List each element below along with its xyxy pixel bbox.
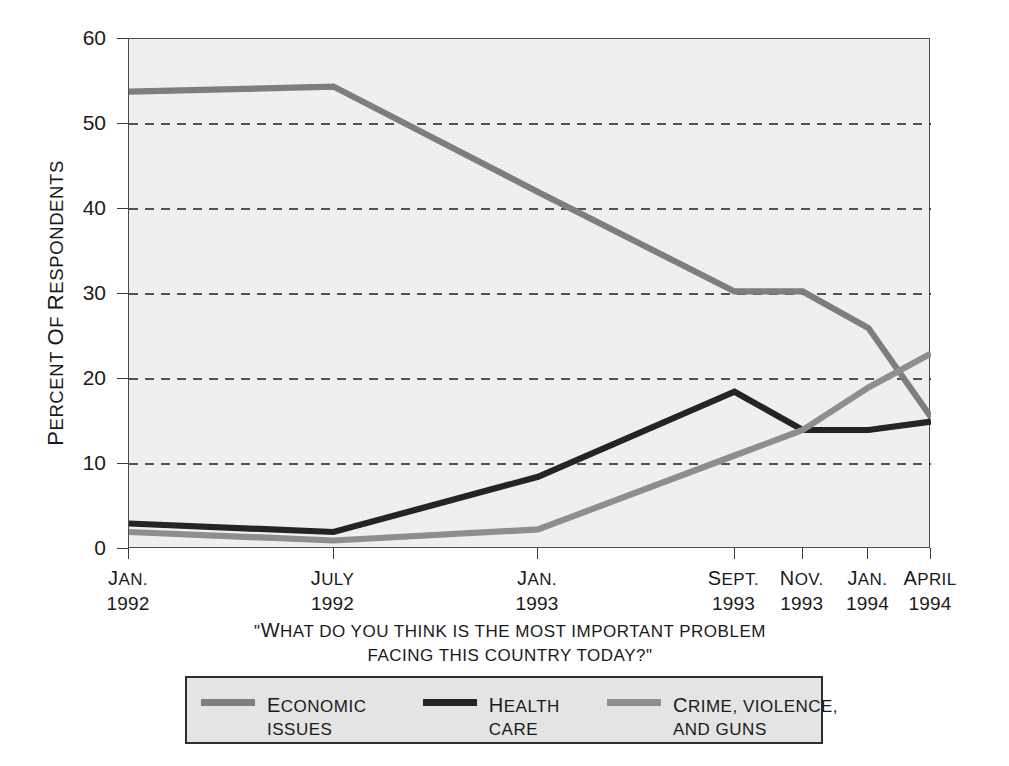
- y-axis-tick-label: 60: [54, 27, 106, 48]
- legend-label-line-1: ECONOMIC: [267, 692, 367, 719]
- y-axis-tick-label: 40: [54, 197, 106, 218]
- x-axis-tick-label: JAN.1993: [477, 565, 597, 617]
- legend-color-swatch: [423, 699, 477, 706]
- series-line-0: [129, 87, 931, 418]
- x-axis-tick-mark: [537, 548, 538, 559]
- y-axis-tick-label: 30: [54, 282, 106, 303]
- series-line-2: [129, 354, 931, 541]
- legend-label-line-1: HEALTH: [489, 692, 560, 719]
- x-tick-month: JAN.: [477, 565, 597, 591]
- legend-label-line-1: CRIME, VIOLENCE,: [673, 692, 838, 719]
- caption-line-2: FACING THIS COUNTRY TODAY?": [130, 644, 890, 668]
- x-tick-month: JULY: [273, 565, 393, 591]
- x-tick-month: JAN.: [68, 565, 188, 591]
- x-axis-tick-mark: [867, 548, 868, 559]
- y-axis-tick-label: 10: [54, 452, 106, 473]
- legend-label-line-2: ISSUES: [267, 719, 367, 742]
- x-tick-month: APRIL: [870, 565, 990, 591]
- x-tick-year: 1993: [477, 591, 597, 616]
- x-tick-year: 1992: [68, 591, 188, 616]
- x-axis-tick-label: JULY1992: [273, 565, 393, 617]
- legend-label-line-2: CARE: [489, 719, 560, 742]
- x-axis-tick-mark: [930, 548, 931, 559]
- y-axis-tick-label: 50: [54, 112, 106, 133]
- series-line-1: [129, 392, 931, 532]
- legend-label: CRIME, VIOLENCE,AND GUNS: [673, 692, 838, 742]
- x-axis-tick-mark: [333, 548, 334, 559]
- x-axis-tick-label: APRIL1994: [870, 565, 990, 617]
- x-tick-year: 1994: [870, 591, 990, 616]
- chart-legend: ECONOMICISSUESHEALTHCARECRIME, VIOLENCE,…: [185, 676, 823, 744]
- x-tick-year: 1992: [273, 591, 393, 616]
- y-axis-tick-label: 20: [54, 367, 106, 388]
- legend-color-swatch: [607, 699, 661, 706]
- chart-caption: "WHAT DO YOU THINK IS THE MOST IMPORTANT…: [130, 616, 890, 669]
- x-axis-tick-mark: [128, 548, 129, 559]
- legend-item[interactable]: HEALTHCARE: [423, 692, 607, 742]
- x-axis-tick-mark: [802, 548, 803, 559]
- x-axis-tick-mark: [734, 548, 735, 559]
- legend-item[interactable]: CRIME, VIOLENCE,AND GUNS: [607, 692, 821, 742]
- legend-item[interactable]: ECONOMICISSUES: [187, 692, 423, 742]
- y-axis-tick-label: 0: [54, 537, 106, 558]
- legend-label: HEALTHCARE: [489, 692, 560, 742]
- plot-area: [128, 38, 930, 548]
- legend-label-line-2: AND GUNS: [673, 719, 838, 742]
- plot-svg: [129, 39, 931, 549]
- x-axis-tick-label: JAN.1992: [68, 565, 188, 617]
- caption-line-1: "WHAT DO YOU THINK IS THE MOST IMPORTANT…: [130, 616, 890, 644]
- chart-figure: PERCENT OF RESPONDENTS 0102030405060 JAN…: [0, 0, 1009, 766]
- legend-label: ECONOMICISSUES: [267, 692, 367, 742]
- legend-color-swatch: [201, 699, 255, 706]
